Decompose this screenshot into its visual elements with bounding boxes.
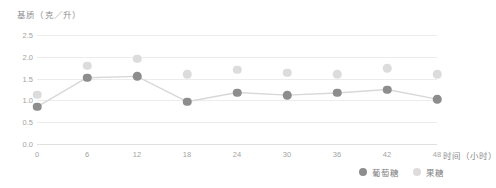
legend: 葡萄糖果糖	[0, 166, 486, 178]
x-tick-label: 18	[183, 150, 191, 159]
y-tick-label: 2.5	[23, 31, 33, 40]
y-axis-title: 基质（克／升）	[17, 8, 81, 20]
legend-label: 葡萄糖	[372, 166, 399, 178]
data-point	[83, 73, 92, 82]
data-point	[433, 70, 442, 79]
y-tick-label: 0.0	[23, 140, 33, 149]
x-tick-label: 6	[85, 150, 89, 159]
gridline	[37, 144, 437, 145]
x-tick-label: 24	[233, 150, 241, 159]
x-tick-label: 42	[383, 150, 391, 159]
legend-swatch-icon	[359, 168, 367, 176]
plot-area	[37, 35, 437, 144]
y-tick-label: 2.0	[23, 52, 33, 61]
legend-swatch-icon	[413, 168, 421, 176]
data-point	[33, 90, 42, 99]
y-tick-label: 0.5	[23, 118, 33, 127]
data-point	[183, 97, 192, 106]
data-point	[383, 64, 392, 73]
data-point	[83, 62, 92, 71]
data-point	[183, 70, 192, 79]
legend-label: 果糖	[426, 166, 444, 178]
data-point	[233, 66, 242, 75]
data-point	[433, 95, 442, 104]
x-axis-title: 时间（小时）	[443, 149, 496, 161]
x-tick-label: 48	[433, 150, 441, 159]
x-tick-label: 36	[333, 150, 341, 159]
data-point	[283, 69, 292, 78]
x-tick-label: 12	[133, 150, 141, 159]
data-point	[133, 54, 142, 63]
data-point	[333, 70, 342, 79]
legend-item[interactable]: 葡萄糖	[359, 166, 399, 178]
y-tick-label: 1.5	[23, 74, 33, 83]
x-tick-label: 0	[35, 150, 39, 159]
data-point	[133, 72, 142, 81]
data-point	[33, 103, 42, 112]
x-tick-label: 30	[283, 150, 291, 159]
data-point	[333, 89, 342, 98]
y-tick-label: 1.0	[23, 96, 33, 105]
data-point	[383, 85, 392, 94]
legend-item[interactable]: 果糖	[413, 166, 444, 178]
data-point	[283, 91, 292, 100]
data-point	[233, 88, 242, 97]
